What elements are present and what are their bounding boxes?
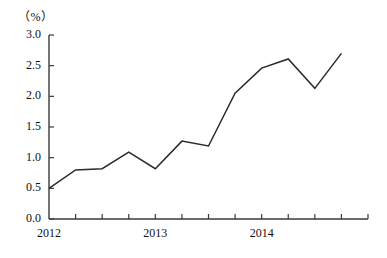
x-tick-label: 2014 (238, 226, 286, 241)
y-tick-label: 0.5 (9, 180, 41, 195)
y-tick-label: 2.0 (9, 88, 41, 103)
y-axis-ticks (49, 35, 54, 219)
axis-lines (49, 35, 368, 219)
x-axis-ticks (76, 214, 368, 219)
x-tick-label: 2012 (25, 226, 73, 241)
y-tick-label: 1.5 (9, 119, 41, 134)
chart-container: （%） 0.00.51.01.52.02.53.0 201220132014 (0, 0, 387, 258)
y-tick-label: 2.5 (9, 58, 41, 73)
y-tick-label: 1.0 (9, 150, 41, 165)
x-tick-label: 2013 (131, 226, 179, 241)
y-tick-label: 3.0 (9, 27, 41, 42)
series-line (49, 53, 341, 188)
data-series-line (49, 53, 341, 188)
line-chart-plot (0, 0, 387, 258)
y-tick-label: 0.0 (9, 211, 41, 226)
